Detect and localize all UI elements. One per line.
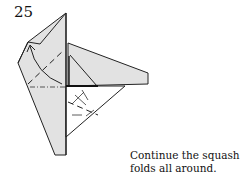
left-flap [18,13,66,155]
caption-line-1: Continue the squash [130,149,240,162]
right-flap [68,43,148,86]
instruction-caption: Continue the squash folds all around. [130,149,240,174]
lower-triangle [66,86,125,137]
caption-line-2: folds all around. [130,162,240,175]
